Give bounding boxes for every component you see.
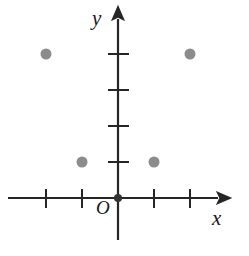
data-point	[149, 157, 160, 168]
data-point	[77, 157, 88, 168]
origin-label: O	[96, 198, 110, 217]
y-axis-label: y	[92, 8, 101, 29]
data-point	[41, 49, 52, 60]
origin-point	[114, 194, 122, 202]
data-point	[185, 49, 196, 60]
coordinate-plane-figure: y x O	[0, 0, 249, 256]
x-axis-label: x	[212, 208, 221, 229]
